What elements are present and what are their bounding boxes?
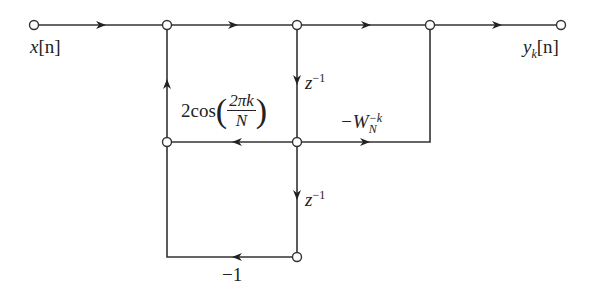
neg-one-label: −1 — [222, 265, 242, 284]
node-n5 — [293, 138, 302, 147]
delay-label-bottom: z−1 — [305, 189, 325, 209]
node-n2 — [293, 21, 302, 30]
node-input — [30, 21, 39, 30]
node-n1 — [163, 21, 172, 30]
node-n3 — [426, 21, 435, 30]
input-label: x[n] — [30, 37, 61, 56]
output-label: yk[n] — [523, 37, 559, 60]
edge-n6-n4 — [167, 142, 297, 257]
node-n6 — [293, 253, 302, 262]
delay-label-top: z−1 — [305, 72, 325, 92]
cos-gain-label: 2cos(2πkN) — [181, 92, 267, 129]
node-output — [557, 21, 566, 30]
signal-flow-graph — [0, 0, 592, 293]
twiddle-gain-label: −W−kN — [340, 112, 382, 135]
node-n4 — [163, 138, 172, 147]
